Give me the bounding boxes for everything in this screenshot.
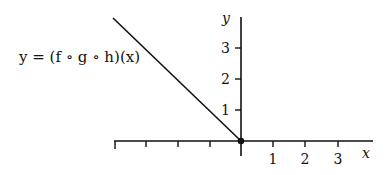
y-tick-label-2: 2 [221,71,230,87]
x-tick-label-3: 3 [334,151,343,167]
graph: 1 2 3 1 2 3 x y [0,0,390,175]
x-ticks [115,141,338,149]
y-ticks [235,48,241,110]
y-tick-label-3: 3 [221,40,230,56]
y-axis-label: y [221,10,231,26]
y-tick-label-1: 1 [221,102,230,118]
x-tick-label-2: 2 [301,151,310,167]
endpoint-dot [238,138,245,145]
x-axis-label: x [362,145,370,161]
x-tick-label-1: 1 [269,151,278,167]
